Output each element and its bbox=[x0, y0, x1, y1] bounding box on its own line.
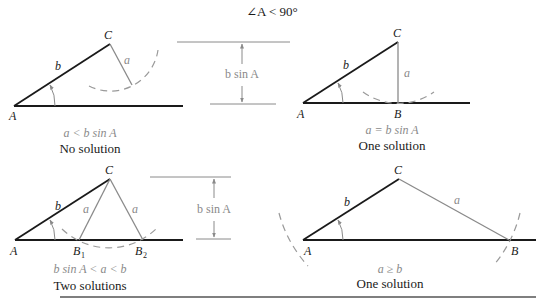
condition-text: b sin A < a < b bbox=[53, 262, 126, 276]
side-b-label: b bbox=[343, 58, 349, 72]
result-text: One solution bbox=[359, 138, 426, 153]
condition-text: a ≥ b bbox=[378, 262, 403, 276]
side-a-label: a bbox=[454, 193, 460, 207]
side-a-2 bbox=[110, 179, 143, 240]
height-label: b sin A bbox=[225, 67, 259, 81]
vertex-c-label: C bbox=[393, 26, 402, 40]
panel-one-solution-large-a: A B C b a a ≥ b One solution bbox=[279, 163, 536, 291]
vertex-c-label: C bbox=[394, 163, 403, 177]
vertex-b2-subscript: 2 bbox=[143, 251, 147, 260]
condition-text: a = b sin A bbox=[365, 123, 419, 137]
side-a-label: a bbox=[124, 53, 130, 67]
vertex-c-label: C bbox=[105, 163, 114, 177]
vertex-b2-label: B bbox=[135, 244, 143, 258]
vertex-a-label: A bbox=[9, 244, 18, 258]
result-text: One solution bbox=[357, 276, 424, 291]
height-indicator-2: b sin A bbox=[150, 177, 231, 239]
condition-text: a < b sin A bbox=[63, 126, 117, 140]
height-label: b sin A bbox=[197, 202, 231, 216]
side-a2-label: a bbox=[132, 202, 138, 216]
angle-arrow-icon bbox=[338, 220, 343, 240]
angle-arrow-icon bbox=[338, 83, 343, 103]
side-b bbox=[15, 179, 110, 240]
angle-arrow-icon bbox=[50, 85, 55, 106]
side-b bbox=[303, 42, 398, 103]
vertex-b1-subscript: 1 bbox=[81, 251, 85, 260]
side-b bbox=[14, 44, 110, 106]
side-b-label: b bbox=[55, 199, 61, 213]
vertex-a-label: A bbox=[8, 109, 17, 123]
vertex-b-label: B bbox=[394, 107, 402, 121]
side-a-label: a bbox=[404, 66, 410, 80]
vertex-a-label: A bbox=[296, 107, 305, 121]
side-a bbox=[399, 179, 509, 240]
side-b-label: b bbox=[344, 195, 350, 209]
panel-two-solutions: A B 1 B 2 C b a a b sin A < a < b Two so… bbox=[9, 163, 183, 293]
side-a1-label: a bbox=[83, 202, 89, 216]
panel-one-solution-right: A B C b a a = b sin A One solution bbox=[296, 26, 470, 153]
vertex-a-label: A bbox=[303, 244, 312, 258]
height-indicator-1: b sin A bbox=[177, 42, 290, 104]
vertex-b1-label: B bbox=[73, 244, 81, 258]
panel-no-solution: A C b a a < b sin A No solution bbox=[8, 28, 183, 156]
diagram-title: ∠A < 90° bbox=[246, 4, 298, 19]
vertex-b-label: B bbox=[511, 244, 519, 258]
side-b bbox=[303, 179, 399, 240]
angle-arrow-icon bbox=[50, 220, 55, 240]
side-b-label: b bbox=[55, 59, 61, 73]
result-text: Two solutions bbox=[53, 278, 126, 293]
result-text: No solution bbox=[59, 141, 121, 156]
vertex-c-label: C bbox=[104, 28, 113, 42]
ambiguous-case-diagram: ∠A < 90° A C b a a < b sin A No solution… bbox=[0, 0, 546, 302]
